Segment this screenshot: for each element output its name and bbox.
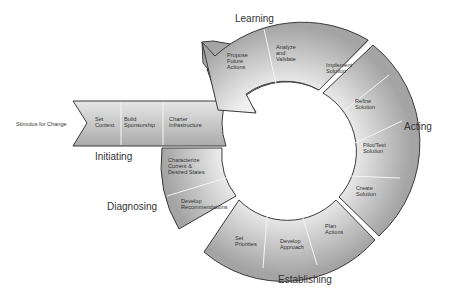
phase-acting-label: Acting	[404, 121, 432, 132]
stimulus-label: Stimulus for Change	[16, 121, 67, 127]
step-refine-solution: Refine Solution	[355, 98, 375, 110]
phase-initiating-label: Initiating	[95, 151, 132, 162]
phase-diagnosing-label: Diagnosing	[107, 201, 157, 212]
step-develop-approach: Develop Approach	[280, 238, 304, 250]
phase-establishing-label: Establishing	[278, 274, 332, 285]
ideal-cycle-diagram: Stimulus for Change Set Context Build Sp…	[0, 0, 455, 300]
phase-learning-label: Learning	[235, 13, 274, 24]
step-create-solution: Create Solution	[356, 185, 376, 197]
